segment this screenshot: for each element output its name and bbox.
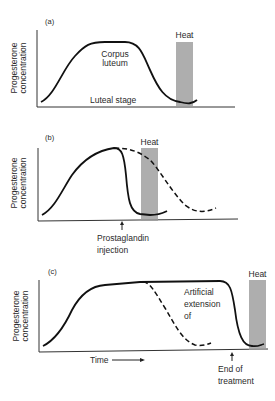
arrow-up-icon [120,221,124,225]
panel-c-heat-bar [249,280,266,350]
panel-c-x-label: Time [90,355,109,365]
panel-b-heat-label: Heat [141,137,160,147]
panel-b-label: (b) [45,133,55,142]
panel-c-annotation-3: of [184,311,192,321]
panel-c-annotation-2: extension [184,299,221,309]
panel-c-y-label-2: concentration [20,290,30,341]
panel-b-heat-bar [141,148,158,221]
panel-b-arrow-label-1: Prostaglandin [97,233,149,243]
panel-a-label: (a) [45,17,55,26]
panel-b-arrow-label-2: injection [97,245,128,255]
panel-a-annotation-2: luteum [102,58,128,68]
panel-c-axes [39,280,268,352]
panel-a: (a) Progesterone concentration Heat Corp… [9,17,235,107]
panel-a-heat-bar [176,42,193,107]
panel-b-y-label-2: concentration [18,157,28,208]
panel-c-annotation-1: Artificial [184,287,214,297]
panel-c: (c) Progesterone concentration Heat Arti… [11,267,268,386]
panel-c-arrow-label-1: End of [218,364,243,374]
progesterone-diagram: (a) Progesterone concentration Heat Corp… [0,0,275,401]
panel-a-heat-label: Heat [176,30,195,40]
panel-a-luteal-stage: Luteal stage [90,95,137,105]
panel-c-curve-extended [43,281,264,346]
arrow-right-icon [140,358,145,362]
panel-b: (b) Progesterone concentration Heat Pros… [9,133,238,255]
arrow-up-icon [230,352,234,356]
panel-a-y-label-2: concentration [18,42,28,93]
panel-c-label: (c) [48,267,57,276]
panel-c-arrow-label-2: treatment [218,376,255,386]
panel-c-heat-label: Heat [249,269,268,279]
